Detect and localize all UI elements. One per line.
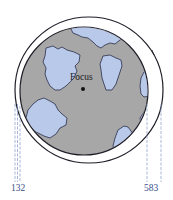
- focus-dot: [81, 87, 85, 91]
- focus-label: Focus: [70, 72, 93, 82]
- orbit-diagram: Focus 132 583: [0, 0, 173, 200]
- right-value-label: 583: [144, 183, 159, 193]
- left-value-label: 132: [11, 183, 26, 193]
